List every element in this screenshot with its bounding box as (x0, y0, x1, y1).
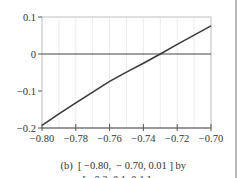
caption-window-y: [ −0.2, 0.1, 0.1 ] (83, 174, 151, 178)
x-tick-label: −0.74 (131, 133, 156, 144)
y-axis-ticks: 0.10−0.1−0.2 (17, 12, 42, 134)
x-tick-label: −0.80 (30, 133, 54, 144)
caption-line-2: [ −0.2, 0.1, 0.1 ] (72, 162, 151, 178)
y-tick-label: 0 (31, 49, 36, 60)
y-tick-label: 0.1 (23, 12, 36, 23)
x-tick-label: −0.72 (165, 133, 189, 144)
x-tick-label: −0.76 (97, 133, 121, 144)
x-tick-label: −0.78 (64, 133, 88, 144)
y-tick-label: −0.1 (17, 86, 36, 97)
caption-label: (b) (61, 160, 73, 171)
graphing-window-chart: 0.10−0.1−0.2 −0.80−0.78−0.76−0.74−0.72−0… (0, 0, 242, 178)
y-tick-label: −0.2 (17, 123, 36, 134)
x-tick-label: −0.70 (199, 133, 223, 144)
page-divider (235, 0, 237, 178)
